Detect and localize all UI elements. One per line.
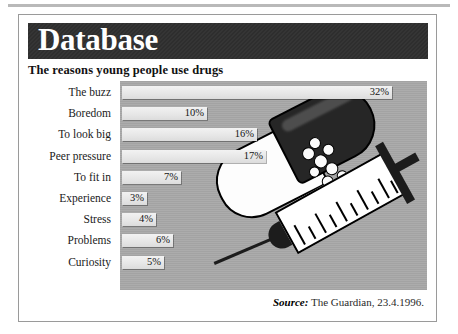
bar-value-label: 16% (235, 127, 254, 141)
bar-value-label: 4% (139, 212, 153, 226)
category-label: The buzz (69, 85, 111, 99)
bar: 17% (122, 150, 266, 163)
category-label: Peer pressure (49, 149, 111, 163)
bar-value-label: 17% (244, 149, 263, 163)
bar-value-label: 10% (185, 106, 204, 120)
bar: 3% (122, 192, 147, 205)
bar: 10% (122, 107, 207, 120)
bar: 16% (122, 128, 257, 141)
source-credit: Source: The Guardian, 23.4.1996. (273, 296, 424, 308)
database-card: Database The reasons young people use dr… (18, 14, 437, 322)
category-label: Curiosity (68, 255, 111, 269)
category-label: Stress (84, 212, 111, 226)
bar-value-label: 3% (130, 191, 144, 205)
bar-value-label: 32% (370, 85, 389, 99)
chart-subtitle: The reasons young people use drugs (28, 63, 223, 78)
bar: 7% (122, 171, 181, 184)
bar: 5% (122, 256, 164, 269)
bar-value-label: 6% (156, 233, 170, 247)
category-label: To fit in (74, 170, 111, 184)
category-label: Problems (68, 233, 111, 247)
bar: 6% (122, 234, 173, 247)
category-label-column: The buzzBoredomTo look bigPeer pressureT… (19, 81, 115, 290)
bar: 32% (122, 86, 392, 99)
source-text: The Guardian, 23.4.1996. (311, 296, 424, 308)
bar-value-label: 5% (147, 255, 161, 269)
syringe-plunger (394, 153, 419, 173)
category-label: Experience (59, 191, 111, 205)
category-label: Boredom (68, 106, 111, 120)
bar: 4% (122, 213, 156, 226)
bar-chart-plot-area: 32%10%16%17%7%3%4%6%5% (120, 81, 427, 290)
top-rule (8, 4, 450, 7)
source-label: Source: (273, 296, 308, 308)
title-banner: Database (28, 23, 428, 59)
bar-value-label: 7% (164, 170, 178, 184)
page-title: Database (38, 20, 158, 60)
category-label: To look big (58, 127, 111, 141)
